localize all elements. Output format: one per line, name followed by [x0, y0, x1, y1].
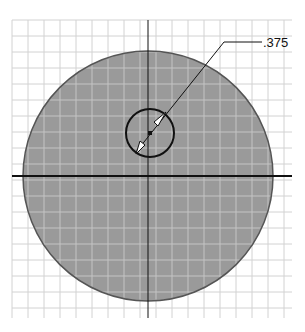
center-point[interactable]	[148, 131, 152, 135]
dimension-value[interactable]: .375	[263, 35, 288, 50]
sketch-drawing: .375	[0, 0, 305, 332]
sketch-canvas[interactable]: .375	[0, 0, 305, 332]
